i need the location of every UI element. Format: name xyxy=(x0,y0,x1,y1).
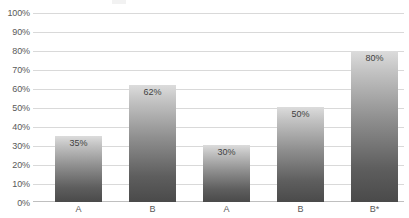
x-axis-tick-label: B* xyxy=(351,204,398,215)
y-axis-tick-label: 60% xyxy=(0,85,30,94)
bar-value-label: 62% xyxy=(129,88,176,97)
y-axis-tick-label: 70% xyxy=(0,66,30,75)
bar-value-label: 80% xyxy=(351,54,398,63)
y-axis-tick-label: 100% xyxy=(0,9,30,18)
bar[interactable] xyxy=(277,107,324,202)
y-axis-tick-label: 0% xyxy=(0,199,30,208)
bar[interactable] xyxy=(351,51,398,202)
bars-layer: 35% 62% 30% 50% 80% xyxy=(33,0,404,202)
plot-area: 35% 62% 30% 50% 80% xyxy=(33,0,404,202)
bar-value-label: 35% xyxy=(55,139,102,148)
x-axis: A B A B B* xyxy=(33,204,404,218)
y-axis-tick-label: 40% xyxy=(0,123,30,132)
bar-value-label: 30% xyxy=(203,148,250,157)
y-axis-tick-label: 90% xyxy=(0,28,30,37)
bar-chart: 100% 90% 80% 70% 60% 50% 40% 30% 20% 10%… xyxy=(0,0,409,218)
x-axis-tick-label: A xyxy=(203,204,250,215)
y-axis: 100% 90% 80% 70% 60% 50% 40% 30% 20% 10%… xyxy=(0,0,30,218)
bar-value-label: 50% xyxy=(277,110,324,119)
x-axis-tick-label: B xyxy=(277,204,324,215)
y-axis-tick-label: 50% xyxy=(0,104,30,113)
y-axis-tick-label: 20% xyxy=(0,161,30,170)
y-axis-tick-label: 10% xyxy=(0,180,30,189)
y-axis-tick-label: 80% xyxy=(0,47,30,56)
y-axis-tick-label: 30% xyxy=(0,142,30,151)
bar[interactable] xyxy=(129,85,176,202)
x-axis-tick-label: B xyxy=(129,204,176,215)
x-axis-tick-label: A xyxy=(55,204,102,215)
